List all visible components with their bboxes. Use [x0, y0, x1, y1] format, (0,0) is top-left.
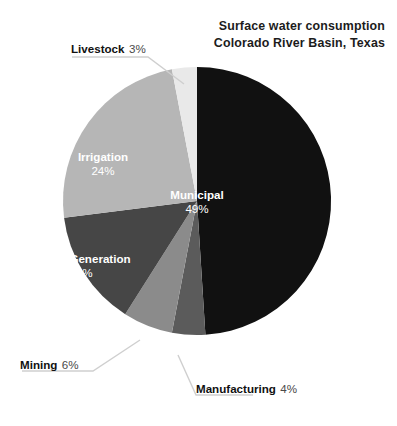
chart-title: Surface water consumption Colorado River…: [214, 18, 385, 52]
slice-label-mining: Mining 6%: [20, 357, 79, 372]
slice-label-livestock: Livestock 3%: [71, 41, 146, 56]
slice-label-power-generation-name: Power Generation: [31, 252, 130, 266]
slice-label-mining-value: 6%: [62, 358, 79, 371]
slice-label-manufacturing: Manufacturing 4%: [196, 381, 297, 396]
slice-label-municipal-value: 49%: [170, 202, 223, 216]
slice-label-municipal-name: Municipal: [170, 188, 223, 202]
slice-label-livestock-value: 3%: [129, 42, 146, 55]
slice-label-mining-name: Mining: [20, 358, 57, 371]
chart-title-line-1: Surface water consumption: [214, 18, 385, 35]
slice-label-livestock-name: Livestock: [71, 42, 125, 55]
chart-title-line-2: Colorado River Basin, Texas: [214, 35, 385, 52]
slice-label-power-generation-value: 14%: [31, 266, 130, 280]
pie-chart-figure: Surface water consumption Colorado River…: [0, 0, 397, 426]
slice-label-manufacturing-value: 4%: [280, 382, 297, 395]
slice-label-irrigation-value: 24%: [78, 164, 128, 178]
slice-label-irrigation-name: Irrigation: [78, 150, 128, 164]
slice-label-power-generation: Power Generation 14%: [31, 252, 130, 280]
slice-label-irrigation: Irrigation 24%: [78, 150, 128, 178]
slice-label-municipal: Municipal 49%: [170, 188, 223, 216]
slice-label-manufacturing-name: Manufacturing: [196, 382, 276, 395]
